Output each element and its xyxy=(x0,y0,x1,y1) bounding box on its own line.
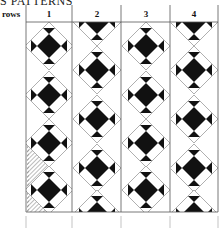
column-1-stars xyxy=(25,22,73,214)
tick-marks xyxy=(26,216,218,228)
column-2-stars xyxy=(73,0,121,232)
column-3-stars xyxy=(122,22,170,214)
quilt-strip-diagram xyxy=(0,0,224,232)
column-4-stars xyxy=(170,0,218,232)
